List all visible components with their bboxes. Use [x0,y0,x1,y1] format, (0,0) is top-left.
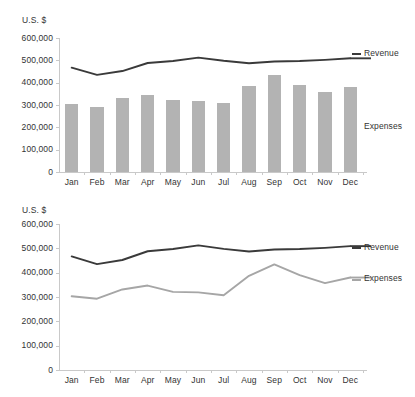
legend-swatch-expenses-bottom [352,279,361,281]
series-label-revenue-bottom: Revenue [364,242,399,252]
legend-swatch-revenue-bottom [352,247,361,249]
line-series-revenue-top [0,0,415,198]
data-line-revenue [72,58,351,75]
series-label-expenses-top: Expenses [364,121,402,131]
data-line-expenses [72,264,351,298]
series-label-expenses-bottom: Expenses [364,273,402,283]
data-line-revenue [72,245,351,264]
combo-bar-line-chart: U.S. $ 600,000500,000400,000300,000200,0… [0,0,415,198]
legend-swatch-revenue-top [352,53,361,55]
line-series-group-bottom [0,190,415,397]
line-chart: U.S. $ 600,000500,000400,000300,000200,0… [0,190,415,397]
series-label-revenue-top: Revenue [364,48,399,58]
